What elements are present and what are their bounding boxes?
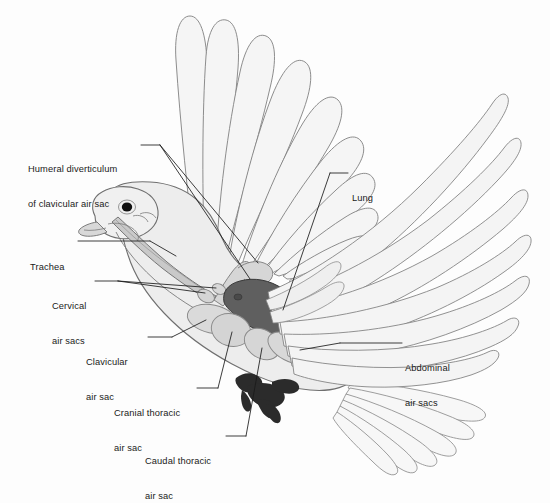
label-abdominal-air-sacs: Abdominal air sacs <box>405 340 450 421</box>
label-line-2: of clavicular air sac <box>28 199 117 211</box>
label-line-1: Trachea <box>30 262 64 274</box>
label-humeral-diverticulum: Humeral diverticulum of clavicular air s… <box>28 141 117 222</box>
label-line-1: Caudal thoracic <box>145 456 211 468</box>
label-line-1: Abdominal <box>405 363 450 375</box>
label-line-1: Cervical <box>52 301 86 313</box>
label-line-2: air sacs <box>405 398 450 410</box>
label-line-1: Clavicular <box>86 357 128 369</box>
feet <box>235 373 299 423</box>
label-cervical-air-sacs: Cervical air sacs <box>52 278 86 359</box>
label-caudal-thoracic-air-sac: Caudal thoracic air sac <box>145 433 211 503</box>
eye <box>122 202 132 211</box>
label-line-2: air sac <box>145 491 211 503</box>
label-lung: Lung <box>352 170 373 216</box>
label-line-2: air sacs <box>52 336 86 348</box>
label-line-1: Lung <box>352 193 373 205</box>
label-line-1: Humeral diverticulum <box>28 164 117 176</box>
label-line-1: Cranial thoracic <box>114 408 180 420</box>
